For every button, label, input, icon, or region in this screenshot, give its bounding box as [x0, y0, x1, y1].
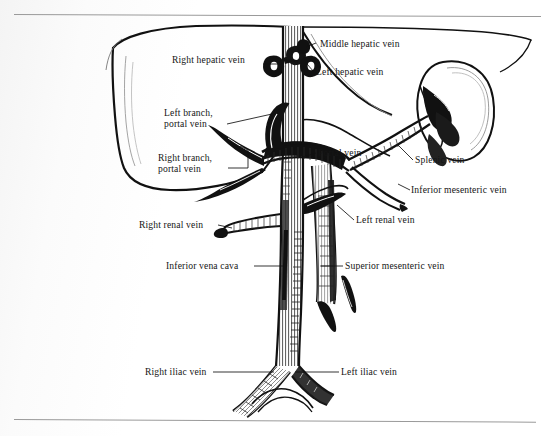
leader-splenic-vein	[397, 144, 413, 160]
label-right-branch-portal-vein-line1: Right branch,	[158, 152, 212, 163]
label-middle-hepatic-vein: Middle hepatic vein	[320, 38, 400, 49]
label-inferior-mesenteric-vein: Inferior mesenteric vein	[411, 184, 507, 195]
label-portal-vein: Portal vein	[318, 147, 361, 158]
label-right-hepatic-vein: Right hepatic vein	[172, 54, 245, 65]
leader-left-branch-portal-vein	[227, 114, 272, 124]
label-right-renal-vein: Right renal vein	[139, 219, 203, 230]
figure-page: Right hepatic vein Middle hepatic vein L…	[0, 0, 545, 436]
label-left-branch-portal-vein-line1: Left branch,	[164, 107, 213, 118]
label-superior-mesenteric-vein: Superior mesenteric vein	[345, 260, 445, 271]
label-right-iliac-vein: Right iliac vein	[145, 366, 207, 377]
label-left-iliac-vein: Left iliac vein	[341, 366, 397, 377]
anatomy-illustration	[0, 0, 545, 436]
label-right-branch-portal-vein-line2: portal vein	[158, 163, 201, 174]
label-splenic-vein: Splenic vein	[415, 154, 465, 165]
leader-left-renal-vein	[337, 205, 354, 220]
label-left-hepatic-vein: Left hepatic vein	[316, 66, 384, 77]
label-inferior-vena-cava: Inferior vena cava	[166, 260, 238, 271]
inferior-mesenteric-vein-branch	[346, 167, 408, 212]
label-left-renal-vein: Left renal vein	[356, 214, 415, 225]
leader-inferior-mesenteric-vein	[398, 184, 410, 190]
superior-mesenteric-vein-branch	[312, 164, 356, 332]
label-left-branch-portal-vein-line2: portal vein	[164, 118, 207, 129]
spleen-outline	[417, 61, 494, 166]
inferior-vena-cava-trunk	[276, 26, 303, 366]
iliac-bifurcation	[233, 366, 334, 417]
right-iliac-vein-branch	[233, 366, 290, 417]
